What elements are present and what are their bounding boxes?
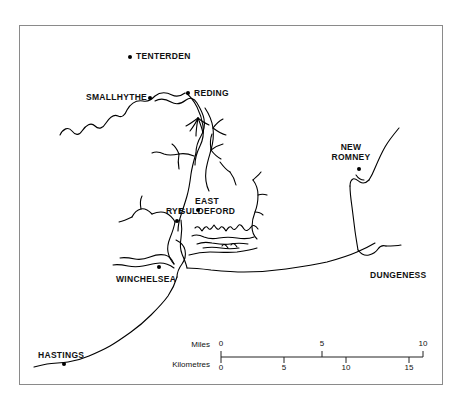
scale-tick-label-km-0: 0 xyxy=(211,363,231,372)
scale-tick-label-miles-5: 5 xyxy=(312,339,332,348)
scale-tick-label-miles-10: 10 xyxy=(413,339,433,348)
map-figure: TENTERDEN SMALLHYTHE REDING NEW ROMNEY E… xyxy=(0,0,459,411)
scale-bar-axis xyxy=(0,0,459,411)
scale-tick-label-miles-0: 0 xyxy=(211,339,231,348)
scale-tick-label-km-5: 5 xyxy=(274,363,294,372)
scale-tick-label-km-10: 10 xyxy=(336,363,356,372)
scale-tick-label-km-15: 15 xyxy=(399,363,419,372)
